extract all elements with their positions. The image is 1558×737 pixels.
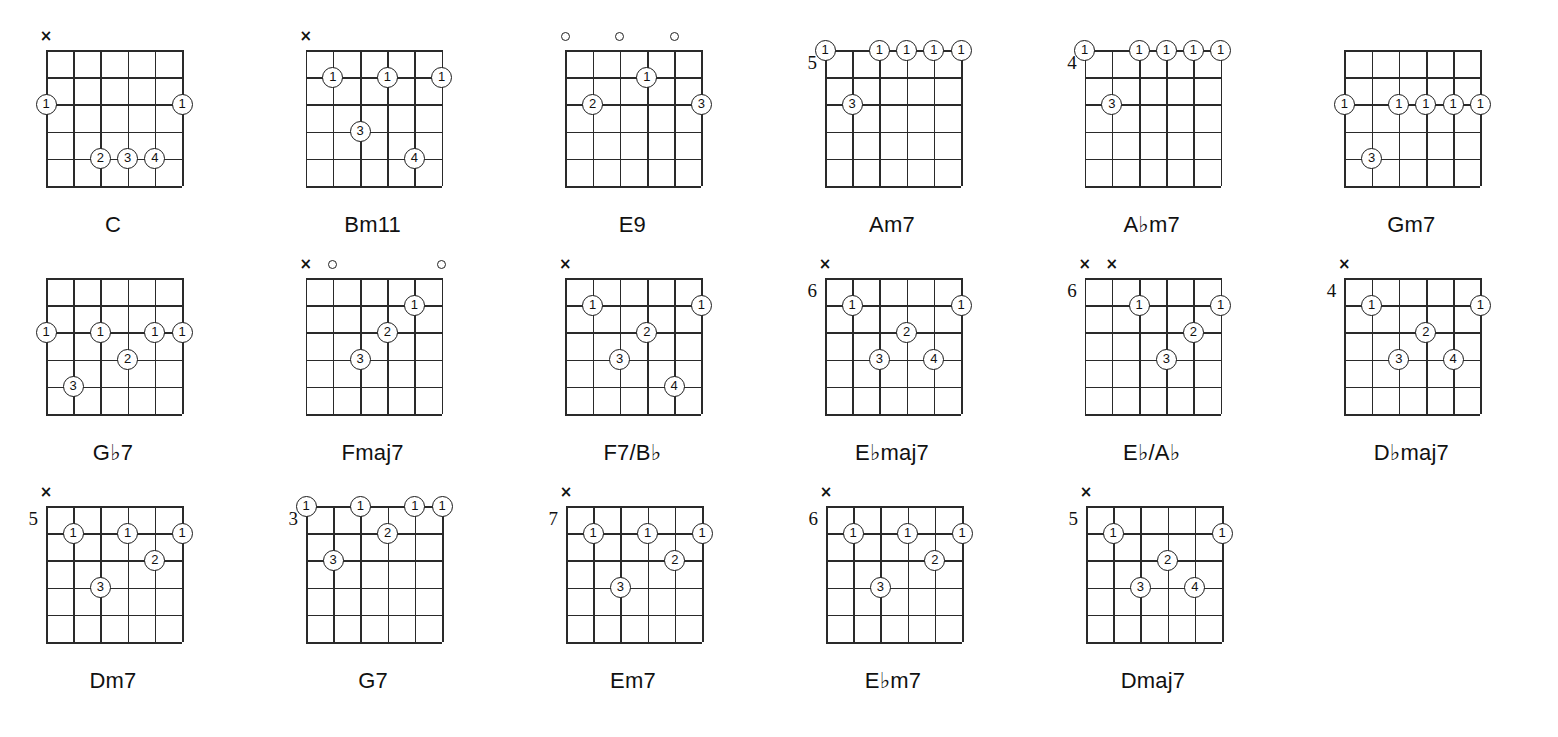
chord-diagram[interactable]: 5111113Am7 <box>779 28 1039 238</box>
finger-dot[interactable]: 3 <box>1361 148 1382 169</box>
finger-dot[interactable]: 1 <box>1210 40 1231 61</box>
finger-dot[interactable]: 3 <box>1130 577 1151 598</box>
finger-dot[interactable]: 1 <box>1156 40 1177 61</box>
finger-dot[interactable]: 1 <box>172 322 193 343</box>
chord-diagram[interactable]: ×11234C <box>0 28 260 238</box>
finger-dot[interactable]: 3 <box>1388 349 1409 370</box>
finger-dot[interactable]: 3 <box>90 577 111 598</box>
finger-dot[interactable]: 1 <box>90 322 111 343</box>
finger-dot[interactable]: 3 <box>691 94 712 115</box>
finger-dot[interactable]: 1 <box>1470 295 1491 316</box>
chord-diagram[interactable]: ×711123Em7 <box>520 484 780 694</box>
finger-dot[interactable]: 1 <box>63 523 84 544</box>
finger-dot[interactable]: 4 <box>664 376 685 397</box>
finger-dot[interactable]: 3 <box>610 577 631 598</box>
finger-dot[interactable]: 1 <box>637 523 658 544</box>
finger-dot[interactable]: 1 <box>36 322 57 343</box>
finger-dot[interactable]: 1 <box>923 40 944 61</box>
finger-dot[interactable]: 1 <box>350 496 371 517</box>
finger-dot[interactable]: 1 <box>1415 94 1436 115</box>
chord-diagram[interactable]: 4111113A♭m7 <box>1039 28 1299 238</box>
finger-dot[interactable]: 1 <box>1388 94 1409 115</box>
chord-diagram[interactable]: 3111123G7 <box>260 484 520 694</box>
finger-dot[interactable]: 1 <box>815 40 836 61</box>
finger-dot[interactable]: 4 <box>1443 349 1464 370</box>
finger-dot[interactable]: 1 <box>1103 523 1124 544</box>
finger-dot[interactable]: 1 <box>1129 295 1150 316</box>
finger-dot[interactable]: 2 <box>377 523 398 544</box>
finger-dot[interactable]: 1 <box>1334 94 1355 115</box>
finger-dot[interactable]: 2 <box>90 148 111 169</box>
finger-dot[interactable]: 1 <box>432 496 453 517</box>
finger-dot[interactable]: 1 <box>144 322 165 343</box>
finger-dot[interactable]: 1 <box>843 523 864 544</box>
finger-dot[interactable]: 2 <box>1157 550 1178 571</box>
finger-dot[interactable]: 4 <box>144 148 165 169</box>
finger-dot[interactable]: 3 <box>870 577 891 598</box>
finger-dot[interactable]: 2 <box>664 550 685 571</box>
finger-dot[interactable]: 2 <box>582 94 603 115</box>
chord-diagram[interactable]: 111113Gm7 <box>1298 28 1558 238</box>
finger-dot[interactable]: 3 <box>869 349 890 370</box>
finger-dot[interactable]: 1 <box>691 295 712 316</box>
finger-dot[interactable]: 3 <box>350 121 371 142</box>
finger-dot[interactable]: 1 <box>404 496 425 517</box>
chord-diagram[interactable]: ×511123Dm7 <box>0 484 260 694</box>
chord-diagram[interactable]: 111123G♭7 <box>0 256 260 466</box>
finger-dot[interactable]: 1 <box>842 295 863 316</box>
finger-dot[interactable]: 1 <box>296 496 317 517</box>
finger-dot[interactable]: 2 <box>924 550 945 571</box>
finger-dot[interactable]: 1 <box>404 295 425 316</box>
finger-dot[interactable]: 3 <box>350 349 371 370</box>
finger-dot[interactable]: 2 <box>117 349 138 370</box>
finger-dot[interactable]: 1 <box>951 40 972 61</box>
finger-dot[interactable]: 1 <box>869 40 890 61</box>
chord-diagram[interactable]: ×411234D♭maj7 <box>1298 256 1558 466</box>
finger-dot[interactable]: 1 <box>431 67 452 88</box>
finger-dot[interactable]: 1 <box>117 523 138 544</box>
chord-diagram[interactable]: ××61123E♭/A♭ <box>1039 256 1299 466</box>
finger-dot[interactable]: 1 <box>1443 94 1464 115</box>
finger-dot[interactable]: 2 <box>377 322 398 343</box>
finger-dot[interactable]: 3 <box>609 349 630 370</box>
finger-dot[interactable]: 3 <box>1101 94 1122 115</box>
finger-dot[interactable]: 1 <box>896 40 917 61</box>
chord-diagram[interactable]: ×611234E♭maj7 <box>779 256 1039 466</box>
finger-dot[interactable]: 1 <box>1210 295 1231 316</box>
finger-dot[interactable]: 3 <box>117 148 138 169</box>
finger-dot[interactable]: 4 <box>1184 577 1205 598</box>
finger-dot[interactable]: 1 <box>583 523 604 544</box>
finger-dot[interactable]: 4 <box>404 148 425 169</box>
finger-dot[interactable]: 1 <box>1129 40 1150 61</box>
chord-diagram[interactable]: ×123Fmaj7 <box>260 256 520 466</box>
finger-dot[interactable]: 1 <box>1183 40 1204 61</box>
finger-dot[interactable]: 2 <box>1183 322 1204 343</box>
finger-dot[interactable]: 1 <box>1361 295 1382 316</box>
finger-dot[interactable]: 2 <box>1415 322 1436 343</box>
finger-dot[interactable]: 1 <box>1470 94 1491 115</box>
finger-dot[interactable]: 1 <box>582 295 603 316</box>
finger-dot[interactable]: 3 <box>842 94 863 115</box>
finger-dot[interactable]: 1 <box>36 94 57 115</box>
chord-diagram[interactable]: 123E9 <box>519 28 779 238</box>
finger-dot[interactable]: 3 <box>1156 349 1177 370</box>
finger-dot[interactable]: 1 <box>377 67 398 88</box>
finger-dot[interactable]: 2 <box>896 322 917 343</box>
finger-dot[interactable]: 2 <box>144 550 165 571</box>
finger-dot[interactable]: 1 <box>322 67 343 88</box>
finger-dot[interactable]: 1 <box>1074 40 1095 61</box>
finger-dot[interactable]: 4 <box>923 349 944 370</box>
finger-dot[interactable]: 1 <box>692 523 713 544</box>
finger-dot[interactable]: 1 <box>636 67 657 88</box>
finger-dot[interactable]: 1 <box>897 523 918 544</box>
chord-diagram[interactable]: ×611123E♭m7 <box>780 484 1040 694</box>
chord-diagram[interactable]: ×11134Bm11 <box>260 28 520 238</box>
chord-diagram[interactable]: ×11234F7/B♭ <box>519 256 779 466</box>
finger-dot[interactable]: 1 <box>951 295 972 316</box>
finger-dot[interactable]: 1 <box>1212 523 1233 544</box>
chord-diagram[interactable]: ×511234Dmaj7 <box>1040 484 1300 694</box>
finger-dot[interactable]: 3 <box>63 376 84 397</box>
finger-dot[interactable]: 1 <box>952 523 973 544</box>
finger-dot[interactable]: 2 <box>636 322 657 343</box>
finger-dot[interactable]: 1 <box>172 94 193 115</box>
